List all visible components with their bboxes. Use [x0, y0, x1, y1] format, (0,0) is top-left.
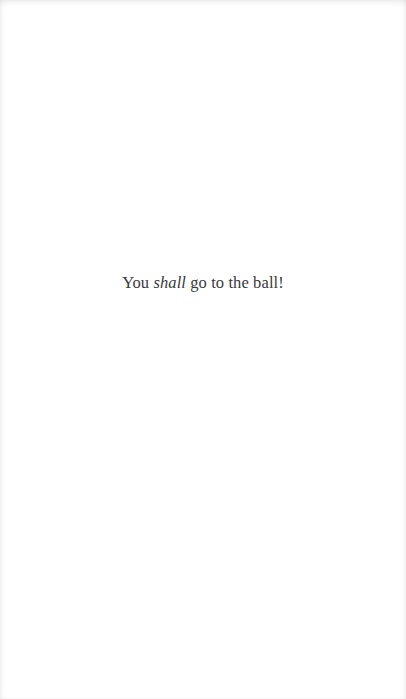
centered-sentence: You shall go to the ball!	[0, 273, 406, 293]
sentence-start: You	[122, 273, 153, 292]
emphasized-word: shall	[153, 273, 186, 292]
sentence-end: go to the ball!	[186, 273, 284, 292]
book-page: You shall go to the ball!	[0, 0, 406, 699]
